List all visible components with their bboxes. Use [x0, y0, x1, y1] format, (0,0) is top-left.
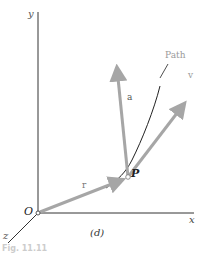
origin-point	[36, 211, 40, 215]
x-axis-label: x	[189, 214, 195, 225]
path-leader-line	[160, 64, 168, 78]
z-axis	[8, 213, 38, 243]
origin-label: O	[24, 205, 33, 218]
panel-label: (d)	[90, 227, 104, 238]
vector-r-label: r	[82, 180, 86, 190]
vector-r	[40, 180, 122, 212]
point-p	[126, 175, 131, 180]
figure-caption-partial: Fig. 11.11	[2, 244, 47, 253]
vector-a	[117, 68, 128, 177]
y-axis-label: y	[28, 8, 34, 19]
vector-v-label: v	[188, 70, 193, 80]
path-label: Path	[165, 50, 185, 60]
point-p-label: P	[131, 167, 139, 180]
vector-a-label: a	[127, 92, 132, 102]
z-axis-label: z	[3, 230, 8, 241]
